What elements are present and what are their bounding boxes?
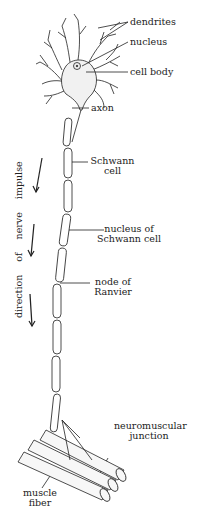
label-node-of-ranvier: node of Ranvier (92, 277, 134, 297)
direction-arrows (28, 158, 42, 326)
axon-drawing (72, 110, 81, 142)
label-dendrites: dendrites (130, 17, 176, 27)
label-axon: axon (91, 103, 114, 113)
label-neuromuscular-junction: neuromuscular junction (114, 421, 184, 441)
label-direction-of-nerve-impulse: direction of nerve impulse (13, 161, 24, 318)
label-cell-body: cell body (130, 67, 173, 77)
label-nucleus-of-schwann-cell: nucleus of Schwann cell (94, 224, 164, 244)
myelin-sheath (50, 118, 72, 432)
label-schwann-cell: Schwann cell (90, 156, 135, 176)
label-muscle-fiber: muscle fiber (20, 488, 60, 508)
neuron-diagram (0, 0, 199, 520)
label-nucleus: nucleus (130, 37, 167, 47)
